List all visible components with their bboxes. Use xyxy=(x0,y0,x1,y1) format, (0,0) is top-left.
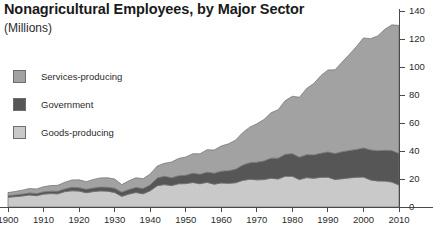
y-tick-label-140: 140 xyxy=(409,5,425,16)
y-tick-label-80: 80 xyxy=(409,89,420,100)
y-tick-label-40: 40 xyxy=(409,145,420,156)
x-axis-ticks: 1900191019201930194019501960197019801990… xyxy=(0,207,410,225)
x-tick-label-1930: 1930 xyxy=(104,214,125,225)
legend-label-government: Government xyxy=(41,99,93,110)
legend-label-services: Services-producing xyxy=(41,71,122,82)
x-tick-label-1910: 1910 xyxy=(33,214,54,225)
legend-label-goods: Goods-producing xyxy=(41,127,114,138)
x-tick-label-1980: 1980 xyxy=(282,214,303,225)
chart-page: Nonagricultural Employees, by Major Sect… xyxy=(0,0,433,238)
y-tick-label-0: 0 xyxy=(409,201,414,212)
y-tick-label-20: 20 xyxy=(409,173,420,184)
legend-swatch-goods xyxy=(13,126,26,139)
legend-item-government: Government xyxy=(13,94,122,114)
y-tick-label-100: 100 xyxy=(409,61,425,72)
y-tick-label-120: 120 xyxy=(409,33,425,44)
x-tick-label-1950: 1950 xyxy=(175,214,196,225)
chart-legend: Services-producing Government Goods-prod… xyxy=(13,66,122,150)
y-axis-ticks: 020406080100120140 xyxy=(399,5,425,212)
x-tick-label-1990: 1990 xyxy=(317,214,338,225)
x-tick-label-2010: 2010 xyxy=(388,214,409,225)
x-tick-label-1940: 1940 xyxy=(140,214,161,225)
x-tick-label-2000: 2000 xyxy=(353,214,374,225)
legend-swatch-services xyxy=(13,70,26,83)
x-tick-label-1900: 1900 xyxy=(0,214,19,225)
legend-swatch-government xyxy=(13,98,26,111)
y-tick-label-60: 60 xyxy=(409,117,420,128)
x-tick-label-1920: 1920 xyxy=(69,214,90,225)
legend-item-services: Services-producing xyxy=(13,66,122,86)
x-tick-label-1970: 1970 xyxy=(246,214,267,225)
legend-item-goods: Goods-producing xyxy=(13,122,122,142)
x-tick-label-1960: 1960 xyxy=(211,214,232,225)
